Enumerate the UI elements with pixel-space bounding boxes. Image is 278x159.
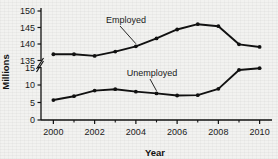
chart-axes (38, 8, 273, 124)
data-point-unemployed (113, 87, 117, 91)
data-point-unemployed (196, 93, 200, 97)
data-point-employed (155, 36, 159, 40)
data-point-unemployed (175, 94, 179, 98)
x-axis-tick-labels: 200020022004200620082010 (43, 127, 269, 137)
series-annotations: EmployedUnemployed (106, 15, 177, 91)
y-axis-title: Millions (0, 54, 11, 89)
y-axis-tick-label: 15 (25, 63, 35, 73)
annotation-leader-unemployed (150, 79, 157, 91)
x-axis-tick-label: 2006 (167, 127, 187, 137)
y-axis-tick-label: 140 (20, 39, 35, 49)
data-point-employed (72, 52, 76, 56)
annotation-label-unemployed: Unemployed (127, 68, 178, 78)
data-point-employed (258, 45, 262, 49)
x-axis-tick-label: 2002 (85, 127, 105, 137)
annotation-label-employed: Employed (106, 15, 146, 25)
y-axis-tick-label: 5 (30, 98, 35, 108)
x-axis-tick-label: 2008 (208, 127, 228, 137)
data-point-unemployed (258, 66, 262, 70)
y-axis-tick-label: 150 (20, 6, 35, 16)
data-point-employed (51, 52, 55, 56)
data-point-employed (113, 50, 117, 54)
data-point-unemployed (93, 89, 97, 93)
data-point-employed (237, 42, 241, 46)
data-point-employed (134, 44, 138, 48)
x-axis-tick-label: 2004 (126, 127, 146, 137)
annotation-leader-employed (120, 26, 136, 44)
data-point-employed (196, 22, 200, 26)
x-axis-tick-label: 2000 (43, 127, 63, 137)
data-point-unemployed (72, 94, 76, 98)
y-axis-tick-label: 10 (25, 80, 35, 90)
data-point-unemployed (155, 92, 159, 96)
employment-line-chart: 135140145150051015 200020022004200620082… (0, 0, 278, 159)
data-point-unemployed (216, 87, 220, 91)
data-point-employed (175, 28, 179, 32)
data-point-employed (93, 54, 97, 58)
data-point-unemployed (134, 90, 138, 94)
data-point-employed (216, 24, 220, 28)
x-axis-title: Year (145, 147, 165, 158)
x-axis-tick-label: 2010 (250, 127, 270, 137)
y-axis-tick-label: 0 (30, 115, 35, 125)
data-point-unemployed (237, 68, 241, 72)
y-axis-tick-labels: 135140145150051015 (20, 6, 35, 125)
y-axis-tick-label: 145 (20, 23, 35, 33)
data-point-unemployed (51, 98, 55, 102)
